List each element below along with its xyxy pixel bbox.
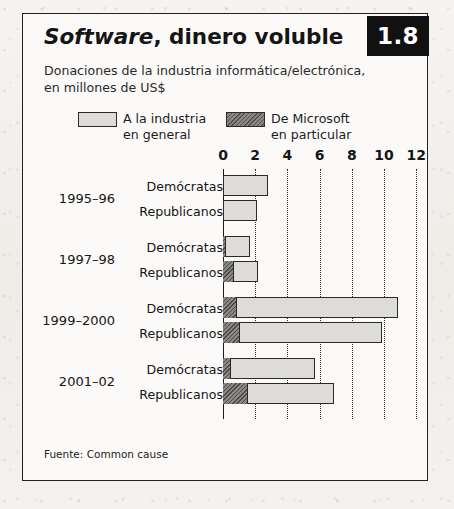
legend-label-microsoft-line2: en particular (271, 127, 351, 143)
bar-segment-microsoft-1-1 (223, 261, 234, 283)
category-label-3-1: Republicanos (139, 386, 223, 401)
legend-item-industry: A la industria en general (78, 111, 206, 142)
bar-1-0 (223, 236, 250, 257)
bar-segment-microsoft-3-1 (223, 383, 249, 405)
figure-frame: 1.8 Software, dinero voluble Donaciones … (22, 13, 428, 481)
figure-title-italic: Software (44, 24, 153, 49)
group-label-2: 1999–2000 (23, 313, 115, 328)
legend-swatch-industry (78, 112, 117, 127)
bar-3-0 (223, 358, 315, 379)
gridline-6 (320, 169, 321, 419)
group-label-0: 1995–96 (23, 191, 115, 206)
plot-area: 1995–96DemócratasRepublicanos1997–98Demó… (23, 169, 429, 419)
category-label-1-0: Demócratas (147, 239, 223, 254)
chart-legend: A la industria en general De Microsoft e… (44, 111, 414, 147)
legend-item-microsoft: De Microsoft en particular (226, 111, 351, 142)
gridline-12 (416, 169, 417, 419)
x-tick-label-12: 12 (406, 147, 425, 163)
x-axis-tick-labels: 024681012 (23, 147, 429, 167)
bar-segment-microsoft-2-0 (223, 297, 237, 319)
x-tick-label-0: 0 (218, 147, 228, 163)
legend-label-microsoft: De Microsoft en particular (271, 111, 351, 142)
bar-0-0 (223, 175, 268, 196)
category-label-2-1: Republicanos (139, 325, 223, 340)
legend-label-industry-line1: A la industria (123, 111, 206, 127)
figure-title-rest: , dinero voluble (153, 24, 343, 49)
group-label-3: 2001–02 (23, 374, 115, 389)
figure-title: Software, dinero voluble (44, 24, 343, 49)
bar-2-1 (223, 322, 382, 343)
bar-3-1 (223, 383, 334, 404)
category-label-1-1: Republicanos (139, 264, 223, 279)
bar-0-1 (223, 200, 257, 221)
bar-chart: 024681012 1995–96DemócratasRepublicanos1… (23, 147, 429, 439)
bar-1-1 (223, 261, 258, 282)
figure-page: 1.8 Software, dinero voluble Donaciones … (0, 0, 454, 509)
gridline-8 (352, 169, 353, 419)
gridline-10 (384, 169, 385, 419)
gridline-4 (287, 169, 288, 419)
legend-swatch-microsoft (226, 112, 265, 127)
legend-label-microsoft-line1: De Microsoft (271, 111, 351, 127)
x-tick-label-6: 6 (315, 147, 325, 163)
legend-label-industry-line2: en general (123, 127, 206, 143)
figure-number-badge: 1.8 (367, 16, 429, 56)
legend-label-industry: A la industria en general (123, 111, 206, 142)
group-label-1: 1997–98 (23, 252, 115, 267)
bar-2-0 (223, 297, 398, 318)
category-label-2-0: Demócratas (147, 300, 223, 315)
figure-subtitle: Donaciones de la industria informática/e… (44, 63, 374, 96)
x-tick-label-10: 10 (374, 147, 393, 163)
bar-segment-microsoft-2-1 (223, 322, 241, 344)
category-label-0-1: Republicanos (139, 203, 223, 218)
bar-segment-microsoft-1-0 (223, 236, 226, 258)
x-tick-label-4: 4 (283, 147, 293, 163)
category-label-3-0: Demócratas (147, 361, 223, 376)
category-label-0-0: Demócratas (147, 178, 223, 193)
source-note: Fuente: Common cause (44, 448, 168, 460)
x-tick-label-2: 2 (250, 147, 260, 163)
figure-inner: 1.8 Software, dinero voluble Donaciones … (23, 14, 429, 482)
bar-segment-microsoft-3-0 (223, 358, 231, 380)
x-tick-label-8: 8 (347, 147, 357, 163)
